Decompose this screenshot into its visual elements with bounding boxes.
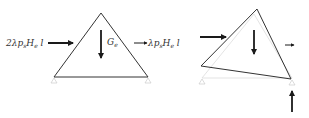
support-left-icon [199,79,205,84]
deformed-triangle-body [201,9,291,79]
panel-undeformed: 2λpsHe l Ge λpsHe l [5,13,180,83]
gravity-label: Ge [107,37,118,48]
support-left-icon [51,78,57,83]
support-right-icon [145,78,151,83]
support-right-icon [289,80,295,85]
panel-deformed [199,9,295,112]
right-force-label: λpsHe l [147,38,180,49]
left-force-label: 2λpsHe l [5,38,44,49]
structural-diagram: 2λpsHe l Ge λpsHe l [0,0,309,118]
